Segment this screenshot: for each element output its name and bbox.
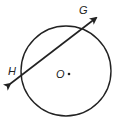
center-point-o [68,73,71,76]
circle-o [21,26,111,116]
label-g: G [79,4,88,16]
label-o: O [56,68,65,80]
diagram-canvas: G H O [0,0,118,122]
label-h: H [8,65,16,77]
